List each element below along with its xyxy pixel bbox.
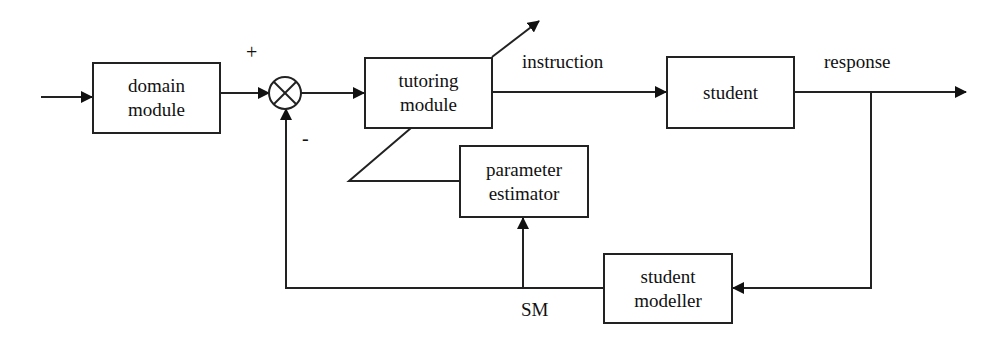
tutoring-control-diagram: domain module tutoring module student pa… xyxy=(0,0,1000,338)
tutoring-module-label-1: tutoring xyxy=(398,69,458,93)
tutoring-module-label-2: module xyxy=(400,93,457,117)
domain-module-block: domain module xyxy=(92,62,221,134)
student-modeller-block: student modeller xyxy=(603,253,733,324)
plus-sign-label: + xyxy=(246,42,257,62)
domain-module-label-1: domain xyxy=(128,74,185,98)
parameter-estimator-block: parameter estimator xyxy=(459,145,589,218)
student-modeller-label-2: modeller xyxy=(634,289,702,313)
minus-sign-label: - xyxy=(302,128,309,148)
student-modeller-label-1: student xyxy=(641,265,696,289)
student-label: student xyxy=(703,81,758,105)
parameter-estimator-label-2: estimator xyxy=(489,182,560,206)
instruction-label: instruction xyxy=(522,52,603,72)
tutoring-module-block: tutoring module xyxy=(364,57,493,129)
response-label: response xyxy=(824,52,890,72)
sm-label: SM xyxy=(521,300,548,320)
parameter-estimator-label-1: parameter xyxy=(486,158,562,182)
domain-module-label-2: module xyxy=(128,98,185,122)
estimator-adjust-line xyxy=(349,128,460,181)
student-block: student xyxy=(666,56,795,129)
